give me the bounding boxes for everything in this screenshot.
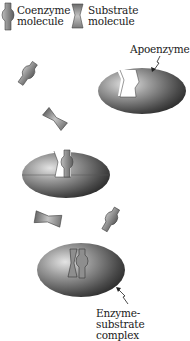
- free-coenzyme-2: [99, 206, 122, 234]
- free-coenzyme-1: [16, 60, 40, 87]
- substrate-legend-label: Substrate molecule: [88, 5, 138, 27]
- enzyme-substrate-complex-shape: [37, 243, 125, 297]
- apoenzyme-shape: [98, 68, 186, 114]
- substrate-icon: [72, 4, 83, 28]
- coenzyme-legend-line2: molecule: [17, 16, 70, 27]
- complex-label-line2: complex: [96, 330, 186, 341]
- enzyme-coenzyme-shape: [22, 150, 110, 198]
- complex-label: Enzyme-substrate complex: [96, 308, 186, 341]
- complex-label-line1: Enzyme-substrate: [96, 308, 186, 330]
- coenzyme-legend-label: Coenzyme molecule: [17, 5, 70, 27]
- coenzyme-icon: [2, 3, 14, 30]
- complex-arrow: [116, 287, 128, 304]
- apoenzyme-label: Apoenzyme: [130, 44, 189, 55]
- free-substrate-1: [43, 107, 68, 130]
- substrate-legend-line2: molecule: [88, 16, 138, 27]
- free-substrate-2: [34, 211, 62, 227]
